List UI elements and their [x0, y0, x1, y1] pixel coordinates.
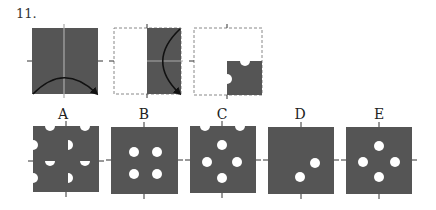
fold-step-1 — [27, 24, 103, 98]
puzzle-figures — [0, 0, 436, 210]
fold-step-2 — [109, 24, 183, 98]
punched-step — [189, 24, 262, 99]
option-e[interactable] — [341, 122, 417, 199]
option-c[interactable] — [185, 121, 261, 198]
option-a[interactable] — [28, 121, 104, 197]
option-d[interactable] — [263, 122, 339, 199]
option-b[interactable] — [106, 122, 183, 199]
